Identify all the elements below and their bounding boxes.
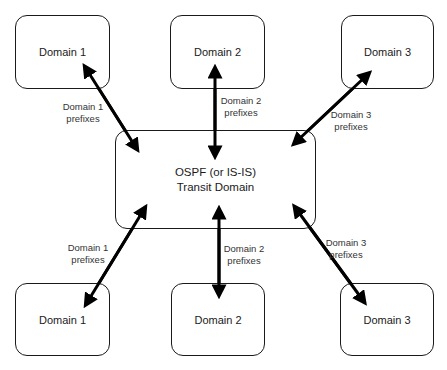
bottom-link-domain1-label: Domain 1 prefixes (68, 242, 109, 266)
bottom-link-domain3-label: Domain 3 prefixes (326, 237, 367, 261)
arrows-overlay (0, 0, 447, 370)
top-link-domain3-label: Domain 3 prefixes (331, 109, 372, 133)
top-link-domain1-label: Domain 1 prefixes (63, 101, 104, 125)
bottom-link-domain2-label: Domain 2 prefixes (224, 243, 265, 267)
top-link-domain2-label: Domain 2 prefixes (221, 95, 262, 119)
